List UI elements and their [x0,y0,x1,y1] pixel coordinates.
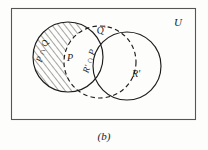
circle-r-prime [93,32,161,100]
figure-caption: (b) [98,130,111,143]
label-set-q-prime: Q' [95,23,108,36]
venn-svg-canvas: U P Q' R' P ∩ Q R' ∩ P (b) [0,0,208,150]
universe-label: U [174,16,183,28]
label-set-r-prime: R' [131,68,141,79]
label-set-p: P [66,52,73,63]
venn-diagram-figure: U P Q' R' P ∩ Q R' ∩ P (b) [0,0,208,150]
